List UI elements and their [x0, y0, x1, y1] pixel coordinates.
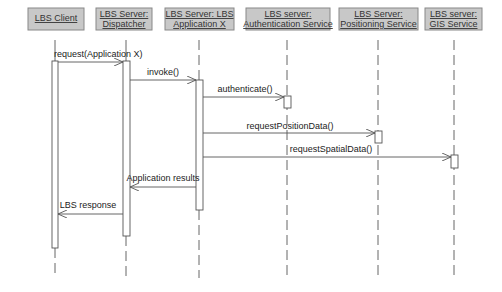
- activation-positioning-service: [375, 131, 382, 143]
- participant-label-line2: GIS Service: [429, 19, 477, 29]
- message-label-authenticate: authenticate(): [217, 84, 272, 94]
- participant-dispatcher: LBS Server: Dispatcher: [96, 8, 152, 30]
- participant-label-line2: Dispatcher: [102, 19, 145, 29]
- message-label-lbs-response: LBS response: [60, 200, 117, 210]
- message-label-application-results: Application results: [126, 173, 200, 183]
- participant-label-line2: Authentication Service: [243, 19, 333, 29]
- participant-label-line2: Positioning Service: [340, 19, 417, 29]
- activation-application-x: [196, 80, 203, 210]
- activation-dispatcher: [123, 61, 130, 236]
- participant-authentication-service: LBS server: Authentication Service: [243, 8, 333, 30]
- participant-label-line1: LBS Server: LBS: [165, 9, 233, 19]
- sequence-diagram: LBS Client LBS Server: Dispatcher LBS Se…: [0, 0, 502, 292]
- message-label-request-position-data: requestPositionData(): [246, 121, 333, 131]
- participant-label-line1: LBS Server:: [100, 9, 149, 19]
- participant-label-line1: LBS Server:: [354, 9, 403, 19]
- participant-label: LBS Client: [35, 13, 78, 23]
- participant-label-line2: Application X: [173, 19, 226, 29]
- participant-label-line1: LBS server:: [264, 9, 311, 19]
- participant-positioning-service: LBS Server: Positioning Service: [339, 8, 418, 30]
- participant-label-line1: LBS server:: [430, 9, 477, 19]
- message-label-invoke: invoke(): [147, 67, 179, 77]
- participant-gis-service: LBS server: GIS Service: [425, 8, 482, 30]
- message-label-request-spatial-data: requestSpatialData(): [290, 144, 373, 154]
- activation-gis-service: [451, 155, 458, 168]
- activation-authentication-service: [284, 96, 291, 108]
- message-label-request-application-x: request(Application X): [54, 49, 143, 59]
- participant-client: LBS Client: [28, 8, 84, 30]
- participant-application-x: LBS Server: LBS Application X: [165, 8, 234, 30]
- activation-client: [52, 61, 58, 248]
